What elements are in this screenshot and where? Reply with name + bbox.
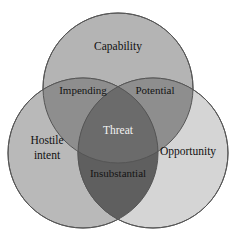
label-potential: Potential bbox=[135, 84, 174, 96]
label-opportunity: Opportunity bbox=[160, 145, 216, 158]
label-hostile-intent-line2: intent bbox=[34, 149, 61, 161]
label-threat: Threat bbox=[103, 124, 134, 136]
label-insubstantial: Insubstantial bbox=[90, 167, 146, 179]
label-hostile-intent-line1: Hostile bbox=[30, 134, 63, 146]
label-impending: Impending bbox=[59, 84, 107, 96]
venn-diagram-canvas: Capability Hostile intent Opportunity Im… bbox=[0, 0, 237, 239]
venn-diagram: Capability Hostile intent Opportunity Im… bbox=[0, 0, 237, 239]
label-capability: Capability bbox=[94, 40, 142, 53]
